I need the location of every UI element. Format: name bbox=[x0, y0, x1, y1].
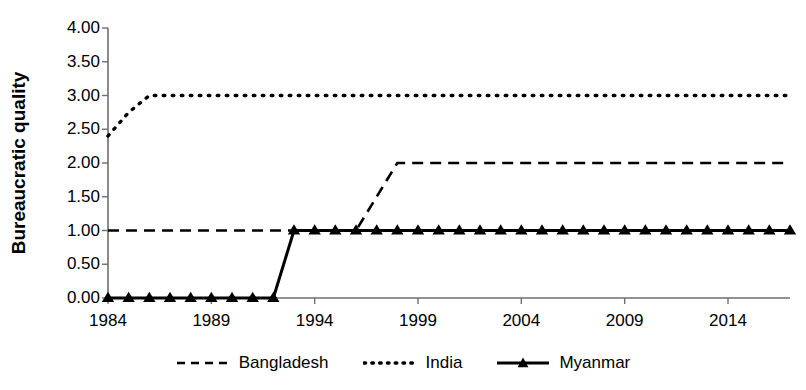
legend-swatch-dashed-icon bbox=[176, 356, 230, 370]
legend-item-myanmar[interactable]: Myanmar bbox=[496, 353, 630, 373]
chart-legend: BangladeshIndiaMyanmar bbox=[0, 348, 806, 378]
legend-item-bangladesh[interactable]: Bangladesh bbox=[176, 353, 329, 373]
legend-swatch-solid-icon bbox=[496, 356, 550, 370]
legend-swatch-dotted-icon bbox=[363, 356, 417, 370]
chart-figure: Bureaucratic quality 0.000.501.001.502.0… bbox=[0, 0, 806, 390]
series-line-india bbox=[108, 96, 790, 137]
axes-group bbox=[102, 28, 790, 304]
series-line-myanmar bbox=[108, 231, 790, 299]
plot-area bbox=[0, 0, 806, 390]
legend-label: India bbox=[426, 353, 463, 373]
data-series-group bbox=[102, 96, 796, 302]
legend-label: Bangladesh bbox=[239, 353, 329, 373]
legend-item-india[interactable]: India bbox=[363, 353, 463, 373]
legend-label: Myanmar bbox=[559, 353, 630, 373]
series-line-bangladesh bbox=[108, 163, 790, 231]
